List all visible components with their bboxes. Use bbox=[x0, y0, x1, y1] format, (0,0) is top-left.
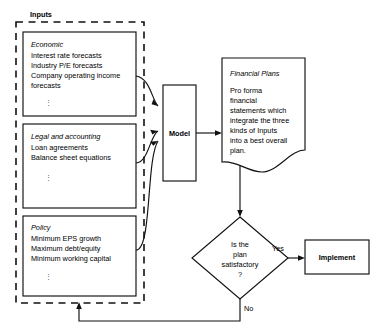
arrowhead-decision-to-implement bbox=[298, 255, 305, 261]
input-box-policy-ellipsis: ⋮ bbox=[45, 273, 52, 280]
financial-plans-line-7: plan. bbox=[230, 146, 246, 155]
input-box-economic-heading: Economic bbox=[31, 40, 63, 49]
input-box-policy-line-3: Minimum working capital bbox=[31, 254, 111, 263]
financial-plans-line-3: statements which bbox=[230, 106, 286, 115]
input-box-legal-ellipsis: ⋮ bbox=[45, 174, 52, 181]
financial-plans-heading: Financial Plans bbox=[230, 69, 280, 78]
decision-line-4: ? bbox=[238, 270, 242, 279]
input-box-economic-line-4: forecasts bbox=[31, 81, 61, 90]
arrowhead-plans-to-decision bbox=[237, 210, 243, 217]
inputs-group-title: Inputs bbox=[30, 10, 52, 19]
financial-plans-line-6: into a best overall bbox=[230, 136, 288, 145]
connector-legal-to-model bbox=[136, 131, 158, 163]
input-box-economic-line-2: Industry P/E forecasts bbox=[31, 61, 103, 70]
input-box-legal-heading: Legal and accounting bbox=[31, 132, 100, 141]
financial-plans-line-4: integrate the three bbox=[230, 116, 289, 125]
connector-decision-feedback-loop bbox=[79, 299, 240, 321]
financial-plans-line-1: Pro forma bbox=[230, 86, 263, 95]
flowchart-diagram: Economic Interest rate forecasts Industr… bbox=[0, 0, 384, 333]
input-box-economic-line-3: Company operating income bbox=[31, 71, 120, 80]
decision-line-2: plan bbox=[233, 250, 247, 259]
input-box-policy-heading: Policy bbox=[31, 223, 52, 232]
financial-plans-line-5: kinds of Inputs bbox=[230, 126, 277, 135]
implement-box-label: Implement bbox=[319, 253, 356, 262]
input-box-legal-line-2: Balance sheet equations bbox=[31, 153, 111, 162]
financial-plans-line-2: financial bbox=[230, 96, 257, 105]
decision-line-1: Is the bbox=[231, 240, 249, 249]
input-box-economic-ellipsis: ⋮ bbox=[45, 99, 52, 106]
edge-label-yes: Yes bbox=[272, 244, 284, 253]
decision-line-3: satisfactory bbox=[222, 260, 259, 269]
arrowhead-model-to-financial-plans bbox=[215, 130, 222, 136]
model-box-label: Model bbox=[169, 129, 190, 138]
input-box-policy-line-2: Maximum debt/equity bbox=[31, 244, 101, 253]
connector-policy-to-model bbox=[136, 141, 158, 250]
input-box-legal-line-1: Loan agreements bbox=[31, 143, 88, 152]
edge-label-no: No bbox=[244, 304, 253, 313]
input-box-policy-line-1: Minimum EPS growth bbox=[31, 234, 101, 243]
flowchart-canvas: Economic Interest rate forecasts Industr… bbox=[0, 0, 384, 333]
input-box-economic-line-1: Interest rate forecasts bbox=[31, 51, 102, 60]
